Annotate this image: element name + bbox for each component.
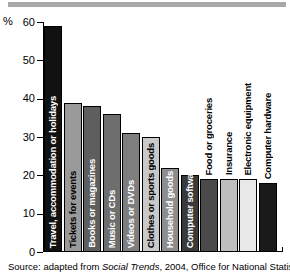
bar-category-label: Household goods — [161, 171, 179, 248]
bar — [239, 179, 257, 252]
bar — [259, 183, 277, 252]
bar-category-label: Clothes or sports goods — [142, 143, 160, 248]
header-rule — [8, 2, 286, 7]
y-axis-tick — [37, 214, 43, 215]
y-axis-tick — [37, 99, 43, 100]
chart-page: % 0102030405060 Travel, accommodation or… — [0, 0, 290, 280]
bar-category-label: Electronic equipment — [239, 83, 257, 176]
bar — [220, 179, 238, 252]
bar-category-label: Insurance — [220, 132, 238, 175]
plot-area: Travel, accommodation or holidaysTickets… — [44, 22, 282, 252]
y-axis-tick-label: 60 — [5, 17, 35, 28]
source-note: Source: adapted from Social Trends, 2004… — [8, 261, 290, 273]
bar-category-label: Tickets for events — [64, 171, 82, 248]
bar-category-label: Music or CDs — [103, 190, 121, 248]
bar-category-label: Computer hardware — [259, 93, 277, 179]
bar-category-label: Computer software — [181, 165, 199, 248]
y-axis-tick — [37, 22, 43, 23]
bar-category-label: Travel, accommodation or holidays — [44, 96, 62, 248]
bar-category-label: Food or groceries — [200, 98, 218, 175]
source-suffix: , 2004, Office for National Statistics. — [159, 261, 290, 272]
y-axis-tick-label: 40 — [5, 93, 35, 104]
y-axis-tick-label: 30 — [5, 132, 35, 143]
source-italic: Social Trends — [102, 261, 159, 272]
y-axis-tick-label: 10 — [5, 208, 35, 219]
y-axis-tick-label: 0 — [5, 247, 35, 258]
bar-category-label: Videos or DVDs — [122, 180, 140, 248]
y-axis-tick — [37, 137, 43, 138]
y-axis-tick-label: 50 — [5, 55, 35, 66]
bar — [200, 179, 218, 252]
y-axis-tick — [37, 252, 43, 253]
x-axis-end-tick — [282, 247, 283, 252]
y-axis-tick — [37, 60, 43, 61]
bar-chart: % 0102030405060 Travel, accommodation or… — [0, 8, 290, 258]
y-axis-tick — [37, 175, 43, 176]
y-axis-tick-label: 20 — [5, 170, 35, 181]
bar-category-label: Books or magazines — [83, 159, 101, 248]
source-prefix: Source: adapted from — [8, 261, 102, 272]
